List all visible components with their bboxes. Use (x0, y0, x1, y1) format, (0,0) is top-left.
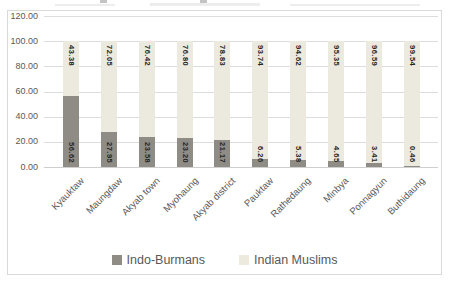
data-label-indian-muslims: 76.42 (143, 45, 151, 66)
chart-legend: Indo-BurmansIndian Muslims (0, 251, 449, 269)
data-label-indian-muslims: 95.35 (332, 45, 340, 66)
data-label-indo-burmans: 5.38 (294, 146, 302, 163)
data-label-indo-burmans: 6.26 (256, 146, 264, 163)
data-label-indian-muslims: 94.62 (294, 45, 302, 66)
data-label-indian-muslims: 93.74 (256, 45, 264, 66)
chart-screenshot: 0.0020.0040.0060.0080.00100.00120.00 56.… (0, 0, 449, 291)
legend-swatch-icon (112, 255, 122, 265)
data-label-indo-burmans: 23.58 (143, 142, 151, 163)
legend-label: Indo-Burmans (127, 253, 206, 267)
y-axis-tick-label: 40.00 (0, 111, 38, 122)
bar-segment-indo-burmans (404, 166, 420, 167)
data-label-indian-muslims: 78.83 (218, 45, 226, 66)
data-label-indian-muslims: 76.80 (181, 45, 189, 66)
data-label-indo-burmans: 23.20 (181, 142, 189, 163)
y-axis-tick-label: 0.00 (0, 162, 38, 173)
cropped-text-fragment (100, 0, 107, 3)
data-label-indo-burmans: 3.41 (370, 146, 378, 163)
gridline (44, 16, 438, 17)
data-label-indian-muslims: 99.54 (408, 45, 416, 66)
scan-artifact (55, 4, 115, 6)
y-axis-tick-label: 20.00 (0, 136, 38, 147)
scan-artifact (290, 4, 420, 6)
legend-swatch-icon (239, 255, 249, 265)
data-label-indo-burmans: 27.95 (105, 142, 113, 163)
data-label-indo-burmans: 0.46 (408, 146, 416, 163)
data-label-indo-burmans: 21.17 (218, 142, 226, 163)
y-axis-tick-label: 120.00 (0, 11, 38, 22)
data-label-indo-burmans: 4.65 (332, 146, 340, 163)
legend-item-indian-muslims: Indian Muslims (239, 253, 337, 267)
legend-label: Indian Muslims (254, 253, 337, 267)
data-label-indian-muslims: 96.59 (370, 45, 378, 66)
data-label-indian-muslims: 72.05 (105, 45, 113, 66)
legend-item-indo-burmans: Indo-Burmans (112, 253, 206, 267)
bar-segment-indo-burmans (366, 163, 382, 167)
data-label-indian-muslims: 43.38 (67, 45, 75, 66)
y-axis-tick-label: 100.00 (0, 36, 38, 47)
y-axis-tick-label: 60.00 (0, 86, 38, 97)
y-axis-tick-label: 80.00 (0, 61, 38, 72)
data-label-indo-burmans: 56.62 (67, 142, 75, 163)
gridline (44, 167, 438, 168)
scan-artifact (150, 3, 260, 6)
